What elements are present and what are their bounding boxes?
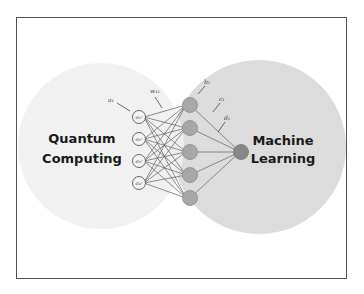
hidden-node (183, 98, 198, 113)
hidden-node (183, 145, 198, 160)
hidden-node (183, 191, 198, 206)
quantum-label-line2: Computing (42, 151, 122, 166)
input-node-label: σ₁ᶻ (135, 114, 142, 120)
c-annotation: c₁ (219, 95, 225, 102)
venn-neural-network-diagram: σ₁ᶻ σ₂ᶻ σ₃ᶻ σ₄ᶻ a₁ w₁₁ b₁ c₁ d₁ Quantum … (0, 0, 364, 294)
input-annotation: a₁ (108, 96, 114, 103)
input-node-label: σ₃ᶻ (135, 158, 142, 164)
output-node (234, 145, 249, 160)
input-node-label: σ₄ᶻ (135, 180, 142, 186)
weight-annotation: w₁₁ (150, 87, 160, 94)
hidden-node (183, 121, 198, 136)
ml-label-line2: Learning (251, 151, 316, 166)
d-annotation: d₁ (224, 114, 230, 121)
quantum-label-line1: Quantum (48, 131, 115, 146)
hidden-node (183, 168, 198, 183)
hidden-annotation: b₁ (204, 78, 210, 85)
input-node-label: σ₂ᶻ (135, 136, 142, 142)
ml-label-line1: Machine (252, 133, 313, 148)
